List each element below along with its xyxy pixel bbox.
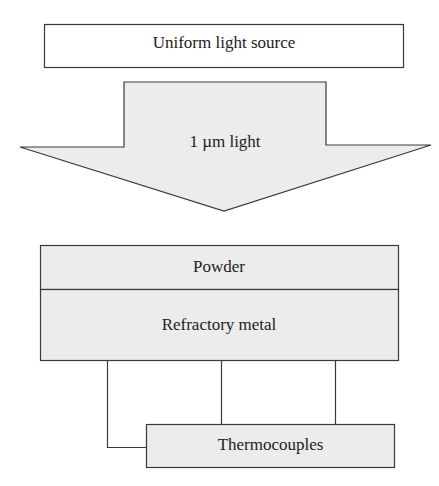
light-source-label: Uniform light source [44, 33, 404, 53]
diagram-canvas [0, 0, 439, 486]
thermocouple-wire-left [108, 361, 147, 448]
powder-label: Powder [40, 257, 398, 277]
thermocouples-label: Thermocouples [146, 435, 395, 455]
arrow-label: 1 µm light [124, 132, 326, 152]
refractory-metal-label: Refractory metal [40, 315, 398, 335]
